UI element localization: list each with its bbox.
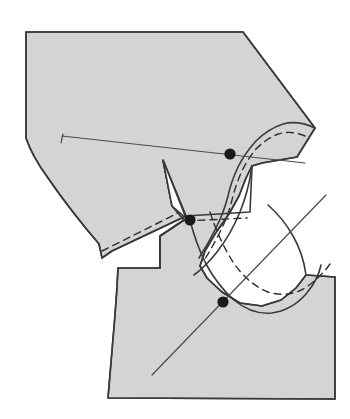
- pattern-drawing-canvas: [0, 0, 350, 419]
- pattern-figure: [0, 0, 350, 419]
- shoulder-match-point: [224, 148, 235, 159]
- side-seam-match-point: [217, 296, 228, 307]
- armhole-lower-cutting-line: [268, 205, 306, 275]
- underarm-match-point: [184, 214, 195, 225]
